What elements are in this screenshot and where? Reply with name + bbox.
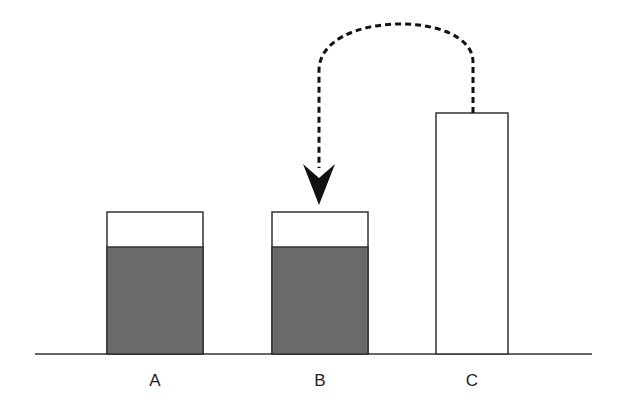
label-b: B — [300, 371, 340, 391]
fill-level-b — [272, 247, 368, 354]
container-c — [436, 113, 508, 354]
fill-level-a — [107, 247, 203, 354]
container-a — [107, 212, 203, 354]
diagram-canvas — [0, 0, 621, 418]
container-b — [272, 212, 368, 354]
arrowhead-icon — [303, 164, 335, 205]
label-a: A — [135, 371, 175, 391]
label-c: C — [452, 371, 492, 391]
